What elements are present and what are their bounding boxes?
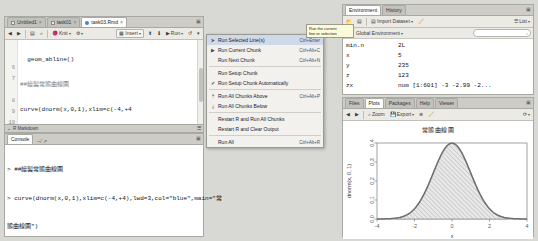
close-icon[interactable]: × (73, 18, 76, 27)
rerun-icon[interactable]: ↺ (187, 29, 193, 38)
environment-row[interactable]: y 235 (346, 61, 530, 71)
document-icon (51, 21, 55, 25)
menu-item-restart-r-and-clear-output[interactable]: Restart R and Clear Output (207, 124, 323, 134)
broom-icon[interactable]: 🧹 (417, 17, 425, 26)
tooltip-line-2: line or selection (309, 31, 351, 36)
run-button[interactable]: ▶ Run ▾ (165, 29, 184, 38)
tab-label: Help (420, 99, 430, 108)
list-label: List (519, 17, 527, 26)
gear-icon[interactable]: ⚙ ▾ (75, 29, 84, 38)
clear-plot-icon[interactable]: ⊗ (418, 110, 424, 119)
tab-environment[interactable]: Environment (345, 5, 381, 15)
export-button[interactable]: 💾 Export ▾ (389, 110, 415, 119)
insert-button[interactable]: ▦ Insert ▾ (116, 29, 144, 38)
source-tab-task01[interactable]: task01 × (47, 17, 81, 27)
svg-text:4: 4 (525, 223, 528, 229)
refresh-icon[interactable]: ⟳▾ (522, 110, 531, 119)
console-line: > curve(dnorm(x,0,1),xlim=c(-4,+4),lwd=3… (7, 194, 201, 204)
close-icon[interactable]: × (39, 18, 42, 27)
knit-icon: 🧶 (52, 29, 58, 38)
back-arrow-icon[interactable]: ◀ (345, 110, 351, 119)
export-icon: 💾 (390, 110, 396, 119)
environment-row[interactable]: zx num [1:601] -3 -2.99 -2... (346, 81, 530, 91)
source-tab-untitled1[interactable]: Untitled1 × (7, 17, 46, 27)
publish-icon[interactable]: ▾ (196, 29, 201, 38)
list-view-button[interactable]: ☰ List ▾ (513, 17, 531, 26)
menu-item-run-current-chunk[interactable]: ▶ Run Current Chunk Ctrl+Alt+C (207, 45, 323, 55)
menu-item-label: Run Setup Chunk Automatically (217, 80, 320, 86)
variable-value: 5 (398, 51, 530, 61)
chevron-down-icon: ▾ (528, 110, 530, 119)
chunks-below-icon: ⤓ (209, 103, 217, 110)
menu-item-run-all-chunks-below[interactable]: ⤓ Run All Chunks Below (207, 101, 323, 111)
svg-text:0.3: 0.3 (369, 158, 375, 166)
scope-selector[interactable]: Global Environment ▾ (355, 29, 404, 38)
tab-files[interactable]: Files (345, 98, 364, 108)
menu-item-run-setup-chunk-automatically[interactable]: ✔ Run Setup Chunk Automatically (207, 78, 323, 88)
source-tab-label: task03.Rmd (91, 18, 118, 27)
variable-name: x (346, 51, 398, 61)
tab-console[interactable]: Console (7, 134, 33, 144)
menu-item-label: Run All Chunks Below (217, 103, 320, 109)
tab-packages[interactable]: Packages (385, 98, 415, 108)
source-editor-panel: Untitled1 × task01 × task03.Rmd × ▣ ◀ ▶ … (4, 16, 204, 130)
menu-item-run-all-chunks-above[interactable]: ⤒ Run All Chunks Above Ctrl+Alt+P (207, 91, 323, 101)
back-arrow-icon[interactable]: ◀ (7, 29, 13, 38)
code-lines[interactable]: geom_abline() ##繪製常態曲線圖 curve(dnorm(x,0,… (20, 40, 203, 128)
minimize-icon[interactable]: ▣ (196, 18, 201, 24)
close-icon[interactable]: × (120, 18, 123, 27)
source-tab-task03-rmd[interactable]: task03.Rmd × (81, 17, 127, 27)
variable-name: min.n (346, 41, 398, 51)
forward-arrow-icon[interactable]: ▶ (16, 29, 22, 38)
minimize-icon[interactable]: ▣ (196, 135, 201, 141)
run-tooltip: Run the current line or selection (306, 24, 354, 38)
run-context-menu[interactable]: ⮞ Run Selected Line(s) Ctrl+Enter ▶ Run … (206, 34, 324, 148)
svg-text:0.2: 0.2 (369, 177, 375, 185)
source-vertical-scrollbar[interactable] (197, 40, 203, 128)
minimize-icon[interactable]: ▣ (526, 99, 531, 105)
save-icon[interactable]: ▤ (356, 17, 363, 26)
tab-plots[interactable]: Plots (365, 98, 384, 108)
svg-text:dnorm(x, 0, 1): dnorm(x, 0, 1) (346, 164, 352, 198)
move-chunk-down-icon[interactable]: ⬇ (156, 29, 162, 38)
export-label: Export (397, 110, 411, 119)
tab-history[interactable]: History (382, 5, 406, 15)
menu-divider (209, 112, 321, 113)
environment-row[interactable]: z 123 (346, 71, 530, 81)
import-label: Import Dataset (377, 17, 410, 26)
menu-item-run-next-chunk[interactable]: Run Next Chunk Ctrl+Alt+N (207, 55, 323, 65)
save-icon[interactable]: ▤ (29, 29, 36, 38)
search-icon[interactable]: ⌕ (39, 29, 44, 38)
outline-icon[interactable]: ☰ (197, 126, 201, 131)
import-dataset-button[interactable]: ▤ Import Dataset ▾ (370, 17, 414, 26)
tab-viewer[interactable]: Viewer (435, 98, 458, 108)
broom-icon[interactable]: 🧹 (427, 110, 435, 119)
environment-search-input[interactable]: ⌕ (473, 29, 531, 37)
menu-item-label: Run Selected Line(s) (217, 37, 300, 43)
source-tab-label: task01 (57, 18, 72, 27)
environment-row[interactable]: x 5 (346, 51, 530, 61)
line-number: 7 (5, 73, 17, 84)
tab-help[interactable]: Help (416, 98, 434, 108)
scrollbar-thumb[interactable] (199, 68, 203, 102)
menu-item-restart-r-and-run-all-chunks[interactable]: Restart R and Run All Chunks (207, 114, 323, 124)
source-status-label: R Markdown (13, 126, 38, 131)
console-output[interactable]: > ##繪製常態曲線圖 > curve(dnorm(x,0,1),xlim=c(… (5, 145, 203, 241)
svg-text:0: 0 (450, 223, 453, 229)
environment-row[interactable]: min.n 2L (346, 41, 530, 51)
code-area[interactable]: 6 7 8 9 10 11 geom_abline() ##繪製常態曲線圖 cu… (5, 40, 203, 128)
menu-item-run-setup-chunk[interactable]: Run Setup Chunk (207, 68, 323, 78)
forward-arrow-icon[interactable]: ▶ (354, 110, 360, 119)
move-chunk-up-icon[interactable]: ⬆ (147, 29, 153, 38)
knit-button[interactable]: 🧶 Knit ▾ (51, 29, 72, 38)
code-line: ##繪製常態曲線圖 (20, 79, 203, 90)
minimize-icon[interactable]: ▣ (526, 6, 531, 12)
variable-name: y (346, 61, 398, 71)
zoom-button[interactable]: ⌕ Zoom (367, 110, 386, 119)
knit-label: Knit (59, 29, 68, 38)
chevron-down-icon: ▾ (81, 29, 83, 38)
menu-item-run-all[interactable]: Run All Ctrl+Alt+R (207, 137, 323, 147)
svg-text:2: 2 (488, 223, 491, 229)
menu-divider (209, 135, 321, 136)
menu-item-label: Run Current Chunk (217, 47, 299, 53)
